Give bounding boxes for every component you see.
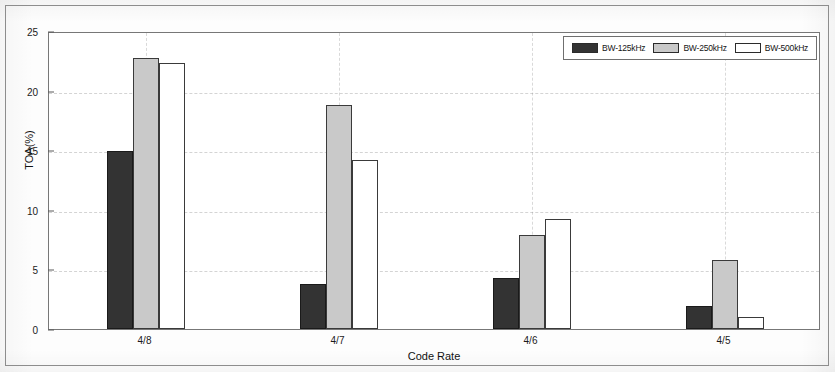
legend-label: BW-125kHz <box>602 43 645 53</box>
y-axis: 0510152025 <box>0 32 48 330</box>
legend-label: BW-500kHz <box>765 43 808 53</box>
y-axis-tick-mark <box>48 210 54 211</box>
y-axis-tick-mark <box>48 151 54 152</box>
bar-bw-500khz-4-8 <box>159 63 185 329</box>
x-axis: 4/84/74/64/5 <box>48 332 820 350</box>
legend-entry-bw-500khz: BW-500kHz <box>731 43 812 53</box>
legend-swatch-icon <box>572 43 598 53</box>
y-axis-tick-label: 20 <box>27 86 38 97</box>
chart-legend: BW-125kHzBW-250kHzBW-500kHz <box>563 36 817 60</box>
y-axis-tick-label: 10 <box>27 205 38 216</box>
y-axis-tick-label: 5 <box>33 265 38 276</box>
bar-bw-500khz-4-5 <box>738 317 764 329</box>
x-axis-tick-label: 4/6 <box>524 335 538 346</box>
bar-bw-250khz-4-7 <box>326 105 352 329</box>
x-axis-tick-label: 4/8 <box>138 335 152 346</box>
bar-bw-250khz-4-8 <box>133 58 159 329</box>
y-axis-tick-mark <box>48 270 54 271</box>
bar-bw-250khz-4-6 <box>519 235 545 329</box>
bar-bw-125khz-4-6 <box>493 278 519 329</box>
y-axis-tick-mark <box>48 91 54 92</box>
legend-entry-bw-125khz: BW-125kHz <box>568 43 649 53</box>
x-axis-title: Code Rate <box>48 350 820 362</box>
bar-bw-250khz-4-5 <box>712 260 738 329</box>
bar-bw-125khz-4-5 <box>686 306 712 329</box>
y-axis-tick-label: 25 <box>27 27 38 38</box>
legend-label: BW-250kHz <box>683 43 726 53</box>
legend-swatch-icon <box>653 43 679 53</box>
x-axis-tick-label: 4/5 <box>717 335 731 346</box>
bar-bw-500khz-4-7 <box>352 160 378 329</box>
plot-area <box>48 32 820 330</box>
y-axis-title: TOA(%) <box>23 130 35 170</box>
bar-bw-500khz-4-6 <box>545 219 571 329</box>
legend-entry-bw-250khz: BW-250kHz <box>649 43 730 53</box>
bar-bw-125khz-4-7 <box>300 284 326 329</box>
bar-bw-125khz-4-8 <box>107 151 133 329</box>
y-axis-tick-mark <box>48 32 54 33</box>
y-axis-tick-label: 0 <box>33 325 38 336</box>
x-axis-tick-label: 4/7 <box>331 335 345 346</box>
legend-swatch-icon <box>735 43 761 53</box>
y-axis-tick-mark <box>48 330 54 331</box>
figure-container: 0510152025 TOA(%) 4/84/74/64/5 Code Rate… <box>0 0 835 372</box>
